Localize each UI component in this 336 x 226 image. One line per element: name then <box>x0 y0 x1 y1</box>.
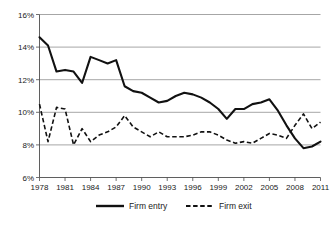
y-tick-label: 12% <box>18 76 34 85</box>
x-tick-label: 1993 <box>158 183 176 192</box>
legend-item-firm-entry: Firm entry <box>96 201 168 211</box>
y-tick-label: 6% <box>22 174 34 183</box>
x-axis-tick-labels: 1978198119841987199019931996199920022005… <box>31 183 330 192</box>
y-axis-ticks <box>36 15 40 178</box>
x-tick-label: 1987 <box>107 183 125 192</box>
x-tick-label: 1999 <box>209 183 227 192</box>
x-tick-label: 1990 <box>133 183 151 192</box>
y-axis-tick-labels: 16%14%12%10%8%6% <box>18 11 34 183</box>
x-tick-label: 2008 <box>286 183 304 192</box>
legend-label-firm-entry: Firm entry <box>129 201 168 211</box>
legend-item-firm-exit: Firm exit <box>186 201 252 211</box>
x-tick-label: 1978 <box>31 183 49 192</box>
x-tick-label: 2005 <box>261 183 279 192</box>
series-line-firm-entry <box>40 37 321 148</box>
legend: Firm entry Firm exit <box>96 201 252 211</box>
x-tick-label: 2011 <box>312 183 330 192</box>
x-tick-label: 1981 <box>56 183 74 192</box>
y-tick-label: 14% <box>18 43 34 52</box>
chart-container: 16%14%12%10%8%6% 19781981198419871990199… <box>0 0 336 226</box>
y-tick-label: 16% <box>18 11 34 20</box>
x-tick-label: 1984 <box>82 183 100 192</box>
x-tick-label: 1996 <box>184 183 202 192</box>
legend-label-firm-exit: Firm exit <box>219 201 252 211</box>
x-axis-ticks <box>40 178 321 182</box>
y-tick-label: 10% <box>18 108 34 117</box>
y-tick-label: 8% <box>22 141 34 150</box>
x-tick-label: 2002 <box>235 183 253 192</box>
gridlines <box>40 15 321 145</box>
line-chart: 16%14%12%10%8%6% 19781981198419871990199… <box>0 0 336 226</box>
